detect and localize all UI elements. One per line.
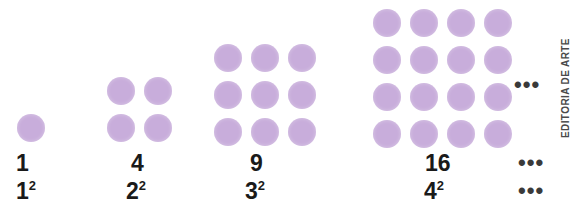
dot [410, 120, 438, 148]
square-base: 3 [245, 178, 258, 204]
dot [447, 46, 475, 74]
square-numbers-figure: ••• 1 4 9 16 ••• 12 22 32 42 ••• EDITORI… [0, 0, 578, 221]
square-label-3: 32 [245, 180, 265, 203]
dot [251, 44, 279, 72]
dot [17, 114, 45, 142]
dot [373, 83, 401, 111]
dot [214, 44, 242, 72]
count-label-1: 1 [16, 152, 29, 175]
dot [251, 81, 279, 109]
dot-array-9 [214, 44, 316, 146]
dot [410, 83, 438, 111]
square-exponent: 2 [258, 178, 265, 193]
dot [214, 81, 242, 109]
count-label-4: 4 [131, 152, 144, 175]
dot-array-1 [17, 114, 45, 142]
dot [144, 114, 172, 142]
ellipsis-count-row: ••• [518, 152, 544, 174]
square-exponent: 2 [29, 178, 36, 193]
dot [144, 77, 172, 105]
credit-line: EDITORIA DE ARTE [560, 8, 571, 138]
square-label-2: 22 [126, 180, 146, 203]
dot [447, 83, 475, 111]
ellipsis-dot-row: ••• [514, 74, 540, 96]
dot [484, 46, 512, 74]
square-base: 2 [126, 178, 139, 204]
dot [288, 81, 316, 109]
dot [107, 77, 135, 105]
dot [447, 9, 475, 37]
dot [484, 9, 512, 37]
dot [214, 118, 242, 146]
square-exponent: 2 [139, 178, 146, 193]
dot [251, 118, 279, 146]
dot [373, 120, 401, 148]
dot [373, 46, 401, 74]
dot [288, 44, 316, 72]
square-label-1: 12 [16, 180, 36, 203]
dot-array-4 [107, 77, 172, 142]
square-label-4: 42 [424, 180, 444, 203]
dot [373, 9, 401, 37]
dot [447, 120, 475, 148]
dot-array-16 [373, 9, 512, 148]
dot [410, 46, 438, 74]
square-base: 4 [424, 178, 437, 204]
dot [484, 83, 512, 111]
count-label-9: 9 [250, 152, 263, 175]
dot [288, 118, 316, 146]
square-base: 1 [16, 178, 29, 204]
dot [484, 120, 512, 148]
dot [107, 114, 135, 142]
square-exponent: 2 [437, 178, 444, 193]
dot [410, 9, 438, 37]
ellipsis-square-row: ••• [518, 180, 544, 202]
count-label-16: 16 [425, 152, 451, 175]
